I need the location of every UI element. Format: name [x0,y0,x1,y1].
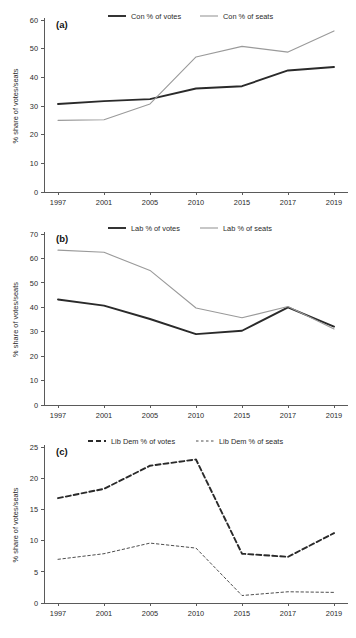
y-tick-label: 70 [30,230,38,239]
y-axis-title: % share of votes/seats [11,282,20,357]
y-tick-label: 40 [30,303,38,312]
y-tick-label: 0 [34,188,38,197]
legend-label-2: Con % of seats [223,12,273,21]
y-tick-label: 40 [30,73,38,82]
y-tick-label: 5 [34,568,38,577]
series-line-lib-dem-of-seats [58,543,334,595]
x-tick-label: 2019 [326,411,342,420]
y-tick-label: 0 [34,401,38,410]
y-tick-label: 50 [30,279,38,288]
legend-label-1: Lab % of votes [131,224,180,233]
legend-label-1: Con % of votes [131,12,181,21]
panel-tag: (b) [56,233,68,244]
x-tick-label: 2005 [142,198,158,207]
x-tick-label: 1997 [50,198,66,207]
x-tick-label: 2001 [96,411,112,420]
x-tick-label: 2010 [188,609,204,618]
y-axis-title: % share of votes/seats [11,487,20,562]
x-tick-label: 2019 [326,198,342,207]
y-tick-label: 50 [30,44,38,53]
x-tick-label: 2017 [280,198,296,207]
y-tick-label: 10 [30,376,38,385]
x-tick-label: 2017 [280,411,296,420]
y-tick-label: 30 [30,102,38,111]
y-tick-label: 60 [30,16,38,25]
x-tick-label: 2001 [96,609,112,618]
series-line-con-of-votes [58,67,334,104]
chart-panel-c: 05101520251997200120052010201520172019% … [0,425,356,638]
x-tick-label: 2005 [142,609,158,618]
legend-label-2: Lib Dem % of seats [219,437,283,446]
x-tick-label: 2015 [234,411,250,420]
y-tick-label: 30 [30,327,38,336]
chart-svg-a: 0102030405060199720012005201020152017201… [0,0,356,212]
x-tick-label: 2010 [188,411,204,420]
y-tick-label: 60 [30,254,38,263]
legend-label-2: Lab % of seats [223,224,272,233]
y-tick-label: 10 [30,159,38,168]
x-tick-label: 2005 [142,411,158,420]
chart-svg-c: 05101520251997200120052010201520172019% … [0,425,356,638]
chart-panel-b: 0102030405060701997200120052010201520172… [0,212,356,425]
legend-label-1: Lib Dem % of votes [111,437,175,446]
series-line-lab-of-votes [58,299,334,334]
series-line-lab-of-seats [58,250,334,329]
x-tick-label: 2001 [96,198,112,207]
chart-svg-b: 0102030405060701997200120052010201520172… [0,212,356,425]
y-tick-label: 20 [30,352,38,361]
x-tick-label: 1997 [50,609,66,618]
x-tick-label: 2010 [188,198,204,207]
series-line-con-of-seats [58,31,334,120]
y-tick-label: 20 [30,130,38,139]
panel-tag: (a) [56,19,68,30]
y-tick-label: 15 [30,505,38,514]
figure-three-panel-vote-seat-share: 0102030405060199720012005201020152017201… [0,0,356,638]
y-tick-label: 0 [34,599,38,608]
x-tick-label: 2019 [326,609,342,618]
chart-panel-a: 0102030405060199720012005201020152017201… [0,0,356,212]
series-line-lib-dem-of-votes [58,459,334,556]
x-tick-label: 2015 [234,609,250,618]
y-tick-label: 25 [30,443,38,452]
panel-tag: (c) [56,446,68,457]
x-tick-label: 1997 [50,411,66,420]
y-axis-title: % share of votes/seats [11,68,20,143]
x-tick-label: 2017 [280,609,296,618]
x-tick-label: 2015 [234,198,250,207]
y-tick-label: 10 [30,536,38,545]
y-tick-label: 20 [30,474,38,483]
